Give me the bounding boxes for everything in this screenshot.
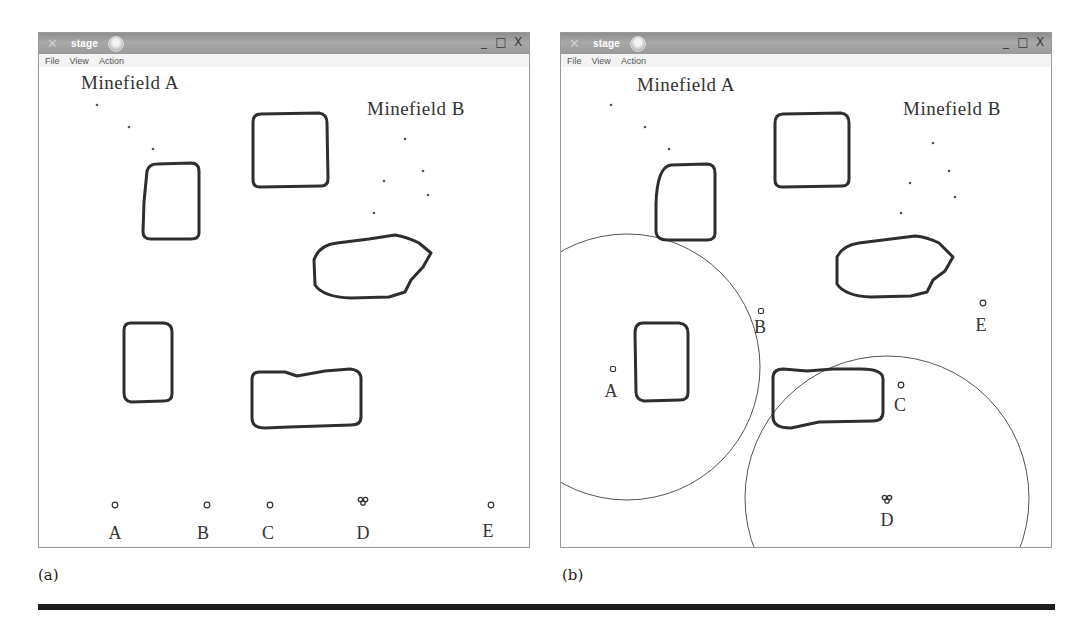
robot-marker — [112, 502, 118, 508]
robot-marker — [759, 309, 764, 314]
robot-label: B — [754, 317, 766, 337]
mine-dot — [404, 138, 407, 141]
robot-label: D — [881, 510, 894, 530]
mine-dot — [383, 180, 386, 183]
obstacle — [253, 113, 328, 187]
window-controls: _ □ X — [477, 35, 525, 50]
obstacle — [314, 235, 431, 298]
window-title: stage — [71, 38, 98, 49]
menu-action[interactable]: Action — [99, 56, 124, 66]
menu-bar: File View Action — [561, 54, 1051, 67]
mine-dot — [128, 126, 131, 129]
mine-dot — [900, 212, 903, 215]
robot-marker — [267, 502, 273, 508]
obstacle — [252, 369, 361, 428]
obstacle — [143, 163, 199, 239]
robot-marker — [882, 495, 891, 503]
robot-label: C — [262, 523, 274, 543]
obstacle — [837, 236, 953, 297]
close-button[interactable]: X — [1033, 35, 1047, 50]
minimize-button[interactable]: _ — [477, 35, 491, 50]
stage-canvas[interactable]: Minefield AMinefield BABCDE — [39, 67, 529, 547]
minefield-label: Minefield B — [367, 98, 465, 119]
stage-window-a: ✕ stage _ □ X File View Action Minefield… — [38, 32, 530, 548]
obstacle — [635, 323, 688, 401]
robot-label: D — [357, 523, 370, 543]
minimize-button[interactable]: _ — [999, 35, 1013, 50]
mine-dot — [373, 212, 376, 215]
mine-dot — [427, 194, 430, 197]
menu-view[interactable]: View — [70, 56, 89, 66]
menu-bar: File View Action — [39, 54, 529, 67]
minefield-label: Minefield A — [637, 74, 735, 95]
obstacle — [775, 113, 849, 187]
robot-label: A — [109, 523, 122, 543]
section-divider — [38, 604, 1055, 610]
robot-label: E — [976, 315, 987, 335]
robot-marker — [898, 382, 904, 388]
robot-marker — [488, 502, 494, 508]
mine-dot — [954, 196, 957, 199]
obstacle — [773, 369, 883, 428]
app-logo-icon — [630, 36, 646, 52]
app-logo-icon — [108, 36, 124, 52]
mine-dot — [96, 104, 99, 107]
mine-dot — [932, 142, 935, 145]
stage-canvas[interactable]: Minefield AMinefield BABCDE — [561, 67, 1051, 547]
stage-window-b: ✕ stage _ □ X File View Action Minefield… — [560, 32, 1052, 548]
menu-file[interactable]: File — [567, 56, 582, 66]
stage-map: Minefield AMinefield BABCDE — [39, 67, 529, 547]
robot-marker — [358, 497, 367, 505]
menu-action[interactable]: Action — [621, 56, 646, 66]
obstacle — [124, 323, 172, 402]
mine-dot — [422, 170, 425, 173]
maximize-button[interactable]: □ — [1016, 35, 1030, 50]
mine-dot — [948, 170, 951, 173]
obstacle — [656, 164, 715, 240]
robot-marker — [980, 300, 986, 306]
window-title: stage — [593, 38, 620, 49]
minefield-label: Minefield A — [81, 72, 179, 93]
title-bar: ✕ stage _ □ X — [39, 33, 529, 54]
mine-dot — [668, 148, 671, 151]
robot-label: A — [605, 381, 618, 401]
mine-dot — [610, 104, 613, 107]
mine-dot — [152, 148, 155, 151]
close-button[interactable]: X — [511, 35, 525, 50]
window-menu-icon[interactable]: ✕ — [43, 36, 61, 51]
stage-map: Minefield AMinefield BABCDE — [561, 67, 1051, 547]
robot-label: E — [483, 521, 494, 541]
menu-view[interactable]: View — [592, 56, 611, 66]
window-controls: _ □ X — [999, 35, 1047, 50]
mine-dot — [909, 182, 912, 185]
maximize-button[interactable]: □ — [494, 35, 508, 50]
minefield-label: Minefield B — [903, 98, 1001, 119]
title-bar: ✕ stage _ □ X — [561, 33, 1051, 54]
window-menu-icon[interactable]: ✕ — [565, 36, 583, 51]
sensor-range-circle — [561, 234, 760, 500]
robot-label: C — [894, 395, 906, 415]
mine-dot — [644, 126, 647, 129]
menu-file[interactable]: File — [45, 56, 60, 66]
panel-caption-a: (a) — [38, 566, 59, 584]
robot-label: B — [197, 523, 209, 543]
robot-marker — [204, 502, 210, 508]
panel-caption-b: (b) — [562, 566, 583, 584]
robot-marker — [611, 367, 616, 372]
